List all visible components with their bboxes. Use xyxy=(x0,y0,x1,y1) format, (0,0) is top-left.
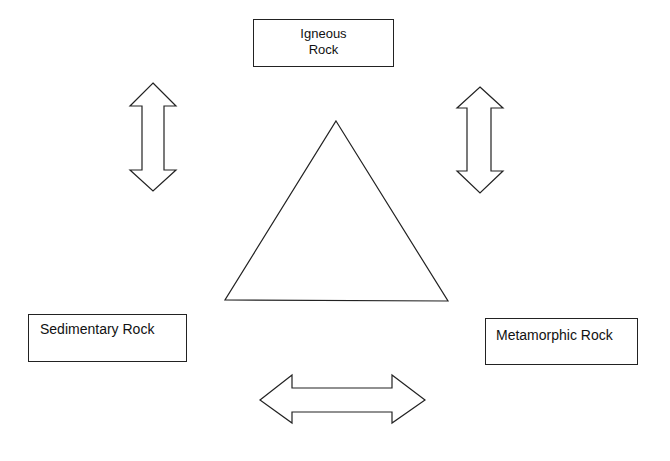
metamorphic-rock-label: Metamorphic Rock xyxy=(496,327,637,344)
double-arrow-horizontal-bottom-icon xyxy=(260,375,425,423)
igneous-rock-box: Igneous Rock xyxy=(253,19,394,67)
igneous-rock-label-line1: Igneous xyxy=(254,26,393,42)
metamorphic-rock-box: Metamorphic Rock xyxy=(485,318,638,365)
diagram-canvas xyxy=(0,0,670,461)
sedimentary-rock-label: Sedimentary Rock xyxy=(40,321,186,338)
sedimentary-rock-box: Sedimentary Rock xyxy=(28,314,187,362)
double-arrow-vertical-right-icon xyxy=(457,87,503,193)
center-triangle-icon xyxy=(225,121,448,301)
double-arrow-vertical-left-icon xyxy=(130,83,176,191)
igneous-rock-label-line2: Rock xyxy=(254,42,393,58)
